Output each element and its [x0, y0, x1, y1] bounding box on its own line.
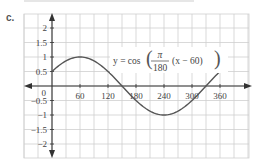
svg-text:−1.5: −1.5 [31, 125, 48, 135]
svg-text:π: π [158, 50, 163, 60]
cosine-graph: 6012018024030036021.510.5−0.5−1−1.5−20 y… [0, 0, 258, 167]
svg-text:60: 60 [76, 91, 86, 101]
svg-text:0.5: 0.5 [36, 67, 48, 77]
svg-text:): ) [214, 47, 221, 70]
svg-text:0: 0 [42, 88, 47, 98]
svg-text:−2: −2 [37, 139, 47, 149]
equation-label: y = cos(π180(x − 60)) [110, 47, 228, 73]
axes [24, 13, 252, 158]
svg-text:−1: −1 [37, 110, 47, 120]
svg-text:1: 1 [43, 52, 48, 62]
svg-text:y = cos: y = cos [113, 56, 141, 66]
svg-text:120: 120 [101, 91, 115, 101]
svg-text:240: 240 [157, 91, 171, 101]
svg-text:2: 2 [43, 23, 48, 33]
svg-text:(x − 60): (x − 60) [172, 56, 203, 67]
svg-text:180: 180 [153, 63, 168, 73]
svg-text:1.5: 1.5 [36, 38, 48, 48]
svg-text:360: 360 [213, 91, 227, 101]
